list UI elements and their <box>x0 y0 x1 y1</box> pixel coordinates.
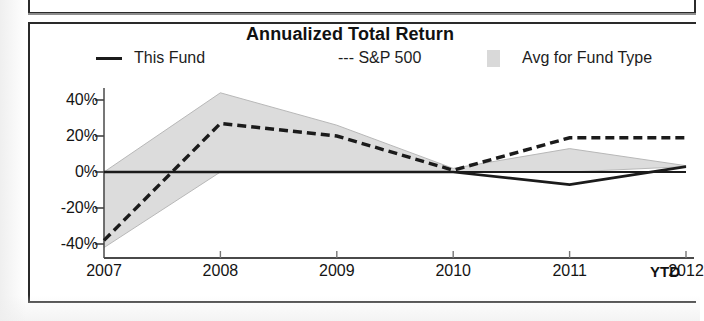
legend-label-this-fund: This Fund <box>134 49 205 67</box>
legend-item-this-fund: This Fund <box>96 46 205 70</box>
chart-legend: This Fund --- S&P 500 Avg for Fund Type <box>0 46 700 70</box>
legend-item-avg-fund-type: Avg for Fund Type <box>487 46 652 70</box>
x-axis-tick-label: 2009 <box>319 262 355 280</box>
y-axis-tick-label: -40% <box>36 235 98 253</box>
x-axis-ytd-label: YTD <box>650 263 680 280</box>
y-axis-tick-label: -20% <box>36 199 98 217</box>
x-axis-tick-label: 2011 <box>552 262 586 280</box>
x-axis-tick-label: 2007 <box>86 262 122 280</box>
series-band-avg-for-fund-type <box>104 93 686 248</box>
y-axis-tick-label: 40% <box>36 91 98 109</box>
x-axis-tick-label: 2008 <box>203 262 239 280</box>
legend-label-avg-fund-type: Avg for Fund Type <box>522 49 652 67</box>
x-axis-tick-label: 2010 <box>435 262 471 280</box>
legend-item-sp500: --- S&P 500 <box>338 46 421 70</box>
legend-label-sp500: --- S&P 500 <box>338 49 421 67</box>
solid-line-swatch-icon <box>96 57 122 60</box>
y-axis-tick-label: 20% <box>36 127 98 145</box>
y-axis-tick-label: 0% <box>36 163 98 181</box>
page-title: Annualized Total Return <box>0 24 700 45</box>
gray-box-swatch-icon <box>487 50 500 67</box>
